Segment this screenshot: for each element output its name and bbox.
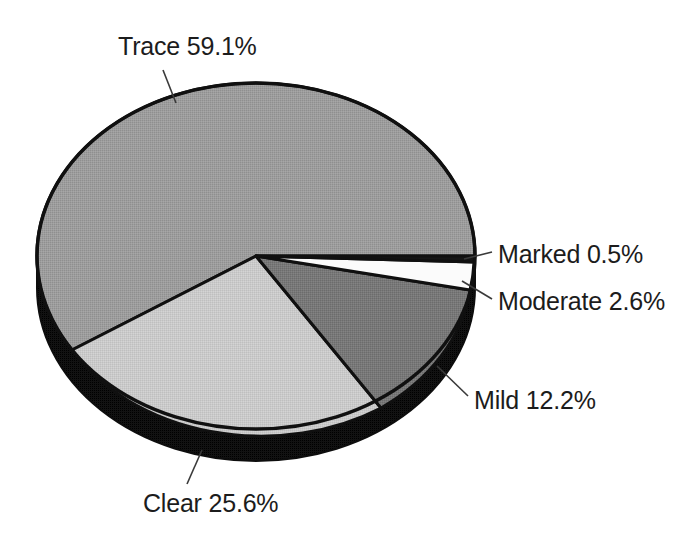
pie-chart: Trace 59.1% Marked 0.5% Moderate 2.6% Mi… [0, 0, 689, 539]
slice-label-mild: Mild 12.2% [474, 386, 596, 415]
slice-label-moderate: Moderate 2.6% [498, 287, 665, 316]
slice-label-trace: Trace 59.1% [118, 32, 257, 61]
slice-label-marked: Marked 0.5% [498, 240, 643, 269]
leader-line-clear [187, 450, 202, 484]
pie-top-surface [37, 83, 475, 436]
pie-chart-graphic [0, 0, 689, 539]
slice-label-clear: Clear 25.6% [143, 489, 278, 518]
